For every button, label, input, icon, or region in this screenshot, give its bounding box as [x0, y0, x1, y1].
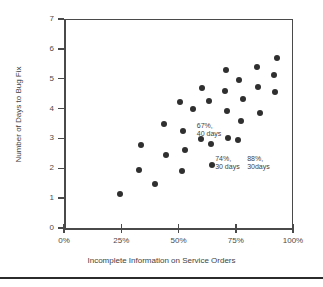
data-point [274, 55, 280, 61]
y-axis-tick-label: 0 [38, 224, 54, 232]
y-axis-tick [58, 197, 64, 199]
point-annotation: 74%, 30 days [215, 155, 240, 171]
data-point [255, 84, 261, 90]
data-point [254, 64, 260, 70]
x-axis-tick [235, 224, 237, 233]
y-axis-tick-label: 5 [38, 75, 54, 83]
x-axis-tick-label: 50% [159, 236, 199, 245]
y-axis-tick-label: 7 [38, 15, 54, 23]
y-axis-tick-label: 4 [38, 105, 54, 113]
x-axis-tick-label: 75% [216, 236, 256, 245]
y-axis-tick [58, 48, 64, 50]
plot-area [64, 19, 293, 228]
y-axis-tick-label: 3 [38, 134, 54, 142]
y-axis-tick [58, 108, 64, 110]
y-axis-title: Number of Days to Bug Fix [14, 35, 23, 195]
data-point [225, 135, 231, 141]
y-axis-tick [58, 138, 64, 140]
bottom-rule [0, 277, 323, 279]
y-axis-tick-label: 1 [38, 194, 54, 202]
y-axis-tick [58, 168, 64, 170]
data-point [136, 167, 142, 173]
data-point [138, 142, 144, 148]
data-point [238, 118, 244, 124]
point-annotation: 67%, 40 days [197, 122, 222, 138]
data-point [199, 85, 205, 91]
data-point [222, 88, 228, 94]
data-point [235, 137, 241, 143]
x-axis-title: Incomplete Information on Service Orders [0, 256, 323, 265]
data-point [180, 128, 186, 134]
data-point [223, 67, 229, 73]
data-point [272, 89, 278, 95]
x-axis-tick [63, 224, 65, 233]
data-point [117, 191, 123, 197]
scatter-chart-figure: 01234567 0%25%50%75%100% 67%, 40 days74%… [0, 0, 323, 287]
x-axis-tick-label: 100% [273, 236, 313, 245]
y-axis-tick [58, 78, 64, 80]
x-axis-tick [178, 224, 180, 233]
x-axis-tick [292, 224, 294, 233]
data-point [224, 108, 230, 114]
y-axis-tick [58, 18, 64, 20]
y-axis-tick-label: 2 [38, 164, 54, 172]
data-point [152, 181, 158, 187]
data-point [206, 98, 212, 104]
y-axis-line [64, 19, 66, 228]
x-axis-tick [121, 224, 123, 233]
x-axis-tick-label: 25% [101, 236, 141, 245]
data-point [236, 77, 242, 83]
x-axis-tick-label: 0% [44, 236, 84, 245]
point-annotation: 88%, 30days [247, 155, 270, 171]
y-axis-tick-label: 6 [38, 45, 54, 53]
